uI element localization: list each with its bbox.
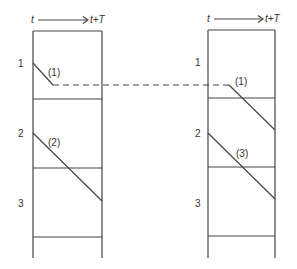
slot-label-3-right: 3	[195, 199, 201, 209]
time-start-left: t	[31, 15, 34, 25]
left-panel	[33, 17, 102, 259]
path-2-left	[33, 133, 102, 201]
slot-label-1-right: 1	[195, 58, 201, 68]
slot-label-2-right: 2	[195, 129, 201, 139]
time-end-left: t+T	[90, 15, 105, 25]
path-label-3-right: (3)	[236, 149, 248, 159]
slot-label-3-left: 3	[18, 199, 24, 209]
slot-label-1-left: 1	[18, 59, 24, 69]
path-label-2-left: (2)	[48, 138, 60, 148]
diagram-canvas	[0, 0, 297, 269]
path-3-right	[208, 133, 275, 199]
path-1-right	[229, 85, 275, 130]
time-end-right: t+T	[265, 14, 280, 24]
path-label-1-left: (1)	[48, 68, 60, 78]
path-label-1-right: (1)	[235, 77, 247, 87]
right-panel	[208, 16, 275, 259]
time-start-right: t	[207, 14, 210, 24]
slot-label-2-left: 2	[18, 129, 24, 139]
